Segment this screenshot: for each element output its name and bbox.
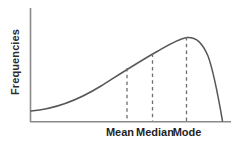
plot-area (0, 0, 237, 145)
y-axis-title: Frequencies (8, 2, 22, 122)
frequency-distribution-figure: Frequencies Mean Median Mode (0, 0, 237, 145)
x-tick-label-mode: Mode (167, 126, 207, 139)
